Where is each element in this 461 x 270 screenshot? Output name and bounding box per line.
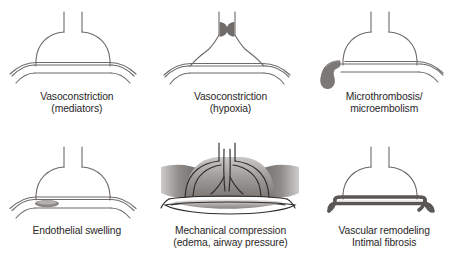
panel-caption: Vasoconstriction (mediators)	[40, 91, 113, 116]
panel-vasoconstriction-hypoxia: Vasoconstriction (hypoxia)	[154, 0, 308, 135]
illustration-vasoconstriction-mediators	[2, 2, 152, 90]
endothelial-swelling-highlight	[37, 200, 56, 204]
vessel-lumen-shading	[173, 199, 283, 208]
panel-endothelial-swelling: Endothelial swelling	[0, 135, 154, 270]
panel-microthrombosis-microembolism: Microthrombosis/ microembolism	[307, 0, 461, 135]
mechanism-figure-grid: Vasoconstriction (mediators)	[0, 0, 461, 270]
vessel-taper-left-inner	[16, 208, 35, 218]
panel-caption: Mechanical compression (edema, airway pr…	[173, 225, 287, 250]
thrombus-plug	[321, 61, 340, 89]
constricted-dome-right	[235, 35, 264, 66]
illustration-endothelial-swelling	[2, 139, 152, 225]
panel-vasoconstriction-mediators: Vasoconstriction (mediators)	[0, 0, 154, 135]
panel-caption: Endothelial swelling	[33, 225, 121, 237]
illustration-vasoconstriction-hypoxia	[155, 2, 305, 90]
vessel-taper-left-outer	[12, 65, 34, 76]
constrictor-blob-right	[227, 22, 235, 37]
panel-caption: Microthrombosis/ microembolism	[346, 91, 423, 116]
alveolar-dome	[36, 32, 110, 66]
vessel-taper-left-inner	[16, 73, 35, 83]
vessel-taper-right-outer	[112, 65, 134, 76]
panel-mechanical-compression: Mechanical compression (edema, airway pr…	[154, 135, 308, 270]
alveolar-dome	[343, 167, 417, 199]
constrictor-blob-left	[220, 22, 228, 37]
vessel-taper-left-inner	[170, 73, 190, 84]
vessel-taper-right-inner	[419, 72, 438, 82]
vessel-taper-right-inner	[111, 208, 130, 218]
alveolar-dome	[36, 167, 110, 200]
panel-vascular-remodeling: Vascular remodeling Intimal fibrosis	[307, 135, 461, 270]
constricted-dome-left	[190, 35, 219, 66]
illustration-microthrombosis	[309, 2, 459, 90]
panel-caption: Vascular remodeling Intimal fibrosis	[339, 225, 430, 250]
alveolar-dome	[343, 32, 417, 65]
vessel-taper-right-inner	[111, 73, 130, 83]
vessel-taper-right-inner	[264, 73, 284, 84]
illustration-mechanical-compression	[155, 139, 305, 225]
illustration-vascular-remodeling	[309, 139, 459, 225]
panel-caption: Vasoconstriction (hypoxia)	[194, 91, 267, 116]
